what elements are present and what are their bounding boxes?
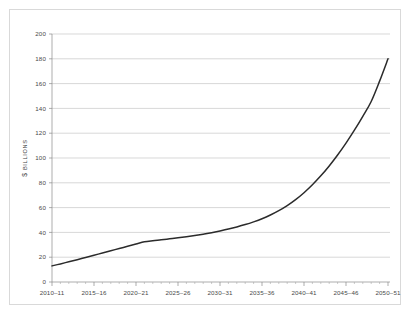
y-tick-label: 40 <box>39 229 47 236</box>
line-chart: 020406080100120140160180200 2010–112015–… <box>0 0 412 317</box>
y-axis-title: $ BILLIONS <box>21 139 28 176</box>
y-tick-label: 100 <box>35 154 46 161</box>
data-series-line <box>52 59 388 266</box>
y-axis-ticks: 020406080100120140160180200 <box>35 30 52 285</box>
y-axis-title-units: BILLIONS <box>22 139 28 170</box>
y-tick-label: 140 <box>35 105 46 112</box>
x-tick-label: 2025–26 <box>165 289 191 296</box>
x-tick-label: 2020–21 <box>123 289 149 296</box>
svg-text:$ BILLIONS: $ BILLIONS <box>21 139 28 176</box>
x-tick-label: 2040–41 <box>291 289 317 296</box>
y-tick-label: 200 <box>35 30 46 37</box>
x-tick-label: 2050–51 <box>375 289 401 296</box>
y-tick-label: 180 <box>35 55 46 62</box>
y-tick-label: 0 <box>42 278 46 285</box>
y-tick-label: 20 <box>39 253 47 260</box>
x-tick-label: 2030–31 <box>207 289 233 296</box>
chart-figure: 020406080100120140160180200 2010–112015–… <box>0 0 412 317</box>
gridlines <box>52 34 390 257</box>
x-axis-ticks: 2010–112015–162020–212025–262030–312035–… <box>40 282 401 296</box>
x-tick-label: 2015–16 <box>81 289 107 296</box>
y-tick-label: 120 <box>35 129 46 136</box>
y-tick-label: 60 <box>39 204 47 211</box>
y-tick-label: 80 <box>39 179 47 186</box>
x-tick-label: 2035–36 <box>249 289 275 296</box>
x-tick-label: 2010–11 <box>40 289 65 296</box>
y-tick-label: 160 <box>35 80 46 87</box>
x-tick-label: 2045–46 <box>333 289 359 296</box>
